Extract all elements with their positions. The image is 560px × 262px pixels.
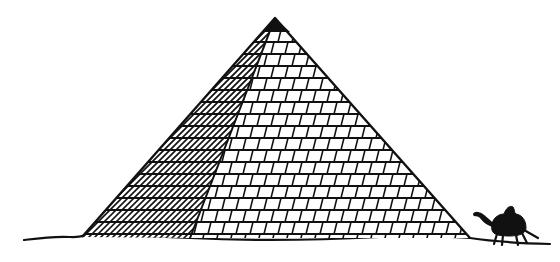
pyramid <box>30 10 480 260</box>
